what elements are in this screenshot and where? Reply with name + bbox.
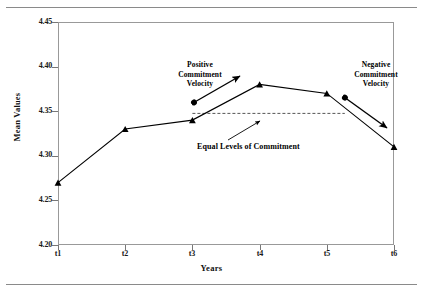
annotation-positive-line-3: Velocity: [160, 79, 240, 89]
y-axis-tick-group: 4.45 4.40 4.35 4.30 4.25 4.20: [0, 0, 52, 292]
y-tick-label-4-20: 4.20: [22, 241, 52, 249]
y-tick-mark-4-45: [52, 22, 58, 23]
x-tick-label-t5: t5: [315, 249, 339, 258]
annotation-positive-line-2: Commitment: [160, 70, 240, 80]
x-tick-label-t4: t4: [248, 249, 272, 258]
y-tick-label-4-25: 4.25: [22, 196, 52, 204]
y-tick-label-4-40: 4.40: [22, 62, 52, 70]
y-tick-label-4-30: 4.30: [22, 151, 52, 159]
page-top-rule: [6, 7, 417, 8]
chart-page: Mean Values 4.45 4.40 4.35 4.30 4.25 4.2…: [0, 0, 423, 292]
annotation-negative-line-2: Commitment: [336, 70, 416, 80]
y-tick-mark-4-35: [52, 111, 58, 112]
plot-area-frame: [58, 22, 394, 245]
x-tick-label-t6: t6: [382, 249, 406, 258]
y-tick-label-4-35: 4.35: [22, 107, 52, 115]
annotation-negative-line-3: Velocity: [336, 79, 416, 89]
x-tick-label-t1: t1: [46, 249, 70, 258]
annotation-negative-commitment-velocity: Negative Commitment Velocity: [336, 60, 416, 89]
y-tick-mark-4-25: [52, 200, 58, 201]
y-tick-mark-4-40: [52, 67, 58, 68]
annotation-positive-commitment-velocity: Positive Commitment Velocity: [160, 60, 240, 89]
annotation-equal-levels-of-commitment: Equal Levels of Commitment: [197, 142, 347, 152]
page-bottom-rule: [6, 284, 417, 285]
y-tick-mark-4-30: [52, 156, 58, 157]
annotation-positive-line-1: Positive: [160, 60, 240, 70]
annotation-negative-line-1: Negative: [336, 60, 416, 70]
x-tick-label-t3: t3: [180, 249, 204, 258]
x-axis-title: Years: [0, 263, 423, 273]
y-tick-label-4-45: 4.45: [22, 18, 52, 26]
x-tick-label-t2: t2: [113, 249, 137, 258]
